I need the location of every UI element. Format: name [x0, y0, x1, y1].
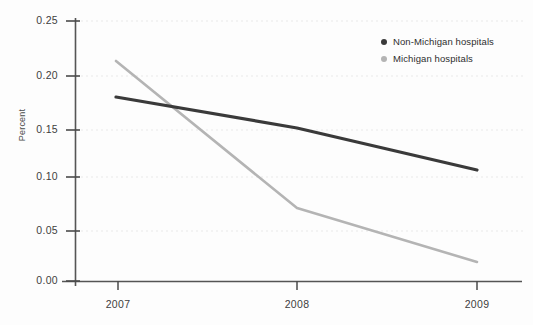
legend-label-michigan-hospitals: Michigan hospitals [393, 53, 473, 64]
legend-marker-circle-icon [381, 56, 387, 62]
y-tick-label-0.05: 0.05 [18, 224, 58, 236]
line-chart: Percent 0.25 0.20 0.15 0.10 0.05 0.00 20… [0, 0, 533, 325]
y-tick-marks [66, 21, 80, 281]
legend-item-michigan-hospitals[interactable]: Michigan hospitals [381, 50, 494, 67]
y-tick-label-0.15: 0.15 [18, 123, 58, 135]
x-tick-label-2008: 2008 [267, 298, 327, 310]
series-line-michigan-hospitals [116, 61, 477, 262]
x-tick-label-2007: 2007 [88, 298, 148, 310]
y-tick-label-0.20: 0.20 [18, 69, 58, 81]
y-tick-label-0.10: 0.10 [18, 170, 58, 182]
series-line-non-michigan-hospitals [116, 97, 477, 170]
x-tick-marks [118, 281, 477, 290]
y-tick-label-0.25: 0.25 [18, 14, 58, 26]
legend-label-non-michigan-hospitals: Non-Michigan hospitals [393, 36, 494, 47]
legend-marker-circle-icon [381, 39, 387, 45]
y-tick-label-0.00: 0.00 [18, 274, 58, 286]
chart-legend: Non-Michigan hospitals Michigan hospital… [381, 33, 494, 67]
legend-item-non-michigan-hospitals[interactable]: Non-Michigan hospitals [381, 33, 494, 50]
x-tick-label-2009: 2009 [447, 298, 507, 310]
